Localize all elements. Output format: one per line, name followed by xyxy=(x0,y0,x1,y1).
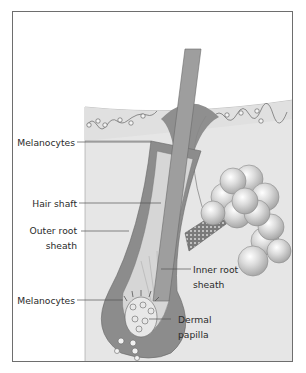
label-inner-root-sheath-line1: Inner root xyxy=(193,262,238,277)
label-hair-shaft: Hair shaft xyxy=(13,196,77,211)
label-outer-root-sheath-line1: Outer root xyxy=(13,223,77,238)
label-melanocytes-bottom: Melanocytes xyxy=(13,293,75,308)
label-melanocytes-top: Melanocytes xyxy=(13,135,75,150)
label-inner-root-sheath-line2: sheath xyxy=(193,277,224,292)
diagram-frame: Melanocytes Hair shaft Outer root sheath… xyxy=(12,11,293,362)
label-dermal-papilla-line2: papilla xyxy=(178,327,209,342)
hair-follicle-illustration xyxy=(13,12,293,362)
label-dermal-papilla-line1: Dermal xyxy=(178,312,211,327)
label-outer-root-sheath-line2: sheath xyxy=(13,238,77,253)
